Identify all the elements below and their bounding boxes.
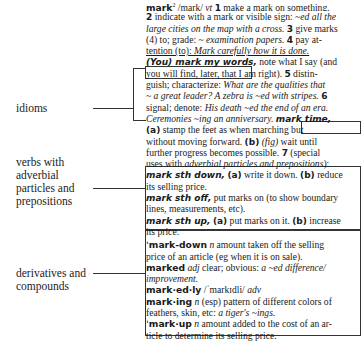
definition-text: uses with xyxy=(146,158,184,169)
definition-text: distin- xyxy=(291,68,318,79)
definition-text: make a mark on something. xyxy=(221,2,330,11)
example-text: What are the qualities that xyxy=(223,79,325,90)
entry-line: guish; characterize: What are the qualit… xyxy=(146,79,360,90)
phrasal-verb: mark sth up, xyxy=(146,216,210,226)
entry-line: mark sth off, put marks on (to show boun… xyxy=(146,192,360,203)
entry-line: mark2 /mark/ vt 1 make a mark on somethi… xyxy=(146,0,360,11)
definition-text: its price. xyxy=(146,226,179,237)
part-of-speech: adv xyxy=(247,284,261,295)
definition-text: reduce xyxy=(315,169,343,180)
example-text: examination papers. xyxy=(206,34,284,45)
subsense-label: (b) xyxy=(300,170,315,180)
example-text: improvement. xyxy=(146,273,198,284)
entry-line: its selling price. xyxy=(146,181,360,192)
definition-text: ): xyxy=(323,158,329,169)
entry-line: feathers, skin, etc: a tiger's ~ings. xyxy=(146,307,360,318)
bracket-idioms-bottom xyxy=(133,120,146,121)
entry-line: (You) mark my words, note what I say (an… xyxy=(146,56,360,67)
connector-verbs xyxy=(93,188,145,189)
idiom-phrase: (You) mark my words, xyxy=(146,57,257,67)
definition-text: wait until xyxy=(278,136,317,147)
bracket-idioms xyxy=(133,68,134,120)
label-derivatives-line: compounds xyxy=(16,280,86,293)
definition-text: lines, measurements, etc). xyxy=(146,203,245,214)
derivative-headword: ˈmark·up xyxy=(146,318,192,329)
definition-text: amount taken off the selling xyxy=(214,239,324,250)
example-text: large cities on the map with a cross. xyxy=(146,23,284,34)
entry-line: price of an article (eg when it is on sa… xyxy=(146,251,360,262)
pronunciation: /ˈmarkɪdli/ xyxy=(201,284,247,295)
definition-text: stamp the feet as when marching but xyxy=(160,124,303,135)
definition-text: signal; denote: xyxy=(146,102,205,113)
definition-text: put marks on (to show boundary xyxy=(211,192,338,203)
subsense-label: (a) xyxy=(146,125,160,135)
example-text: Mark carefully how it is done. xyxy=(194,45,309,56)
entry-line: marked adj clear; obvious: a ~ed differe… xyxy=(146,262,360,273)
label-derivatives: derivatives and compounds xyxy=(16,267,86,293)
connector-idioms xyxy=(93,108,133,109)
connector-derivatives xyxy=(93,273,145,274)
derivative-headword: ˈmark-down xyxy=(146,239,207,250)
subsense-label: (a) xyxy=(227,170,241,180)
entry-line: further progress becomes possible. 7 (sp… xyxy=(146,147,360,158)
definition-text: give marks xyxy=(293,23,338,34)
entry-line: large cities on the map with a cross. 3 … xyxy=(146,23,360,34)
entry-line: mark·ed·ly /ˈmarkɪdli/ adv xyxy=(146,284,360,295)
entry-line: without moving forward. (b) (fig) wait u… xyxy=(146,136,360,147)
phrasal-verb: mark sth down, xyxy=(146,170,225,180)
label-derivatives-line: derivatives and xyxy=(16,267,86,280)
label-idioms: idioms xyxy=(16,102,47,115)
example-text: Ceremonies ~ing an anniversary. xyxy=(146,113,273,124)
label-verbs-line: adverbial xyxy=(16,169,74,182)
entry-line: (4) to; grade: ~ examination papers. 4 p… xyxy=(146,34,360,45)
entry-line: lines, measurements, etc). xyxy=(146,203,360,214)
derivative-headword: marked xyxy=(146,262,185,273)
definition-text: price of an article (eg when it is on sa… xyxy=(146,251,303,262)
entry-line: ~ a great leader? A zebra is ~ed with st… xyxy=(146,90,360,101)
entry-line: mark sth down, (a) write it down. (b) re… xyxy=(146,169,360,180)
sense-number: 6 xyxy=(321,91,327,101)
example-text: a ~ed difference/ xyxy=(261,262,326,273)
example-text: ~ed all the xyxy=(295,11,336,22)
definition-text: tention (to): xyxy=(146,45,194,56)
definition-text: put marks on it. xyxy=(227,215,292,226)
label-verbs-line: verbs with xyxy=(16,156,74,169)
definition-text: (4) to; grade: ~ xyxy=(146,34,206,45)
entry-line: uses with adverbial particles and prepos… xyxy=(146,158,360,169)
definition-text: feathers, skin, etc: xyxy=(146,307,218,318)
definition-text: ticle to determine its selling price. xyxy=(146,330,277,341)
label-verbs: verbs with adverbial particles and prepo… xyxy=(16,156,74,208)
entry-line: Ceremonies ~ing an anniversary. mark tim… xyxy=(146,113,360,124)
homograph-number: 2 xyxy=(172,2,175,8)
label-verbs-line: particles and xyxy=(16,182,74,195)
entry-line: ˈmark-down n amount taken off the sellin… xyxy=(146,239,360,250)
usage-label: (fig) xyxy=(262,136,279,147)
entry-line: ˈmark·up n amount added to the cost of a… xyxy=(146,318,360,329)
entry-line: (a) stamp the feet as when marching but xyxy=(146,124,360,135)
entry-line: you will find, later, that I am right). … xyxy=(146,68,360,79)
entry-line: its price. xyxy=(146,226,360,237)
subsense-label: (b) xyxy=(245,137,260,147)
subsense-label: (a) xyxy=(213,216,227,226)
definition-text: amount added to the cost of an ar- xyxy=(199,318,332,329)
dictionary-entry: mark2 /mark/ vt 1 make a mark on somethi… xyxy=(146,0,360,341)
derivative-headword: mark·ing xyxy=(146,296,192,307)
entry-line: tention (to): Mark carefully how it is d… xyxy=(146,45,360,56)
part-of-speech: adj xyxy=(187,262,199,273)
example-text: ~ a great leader? A zebra is ~ed with st… xyxy=(146,90,319,101)
entry-line: improvement. xyxy=(146,273,360,284)
definition-text: increase xyxy=(307,215,341,226)
definition-text: without moving forward. xyxy=(146,136,245,147)
entry-line: signal; denote: His death ~ed the end of… xyxy=(146,102,360,113)
definition-text: indicate with a mark or visible sign: xyxy=(152,11,295,22)
definition-text: you will find, later, that I am right). xyxy=(146,68,282,79)
example-text: a tiger's ~ings. xyxy=(218,307,275,318)
label-verbs-line: prepositions xyxy=(16,195,74,208)
definition-text: guish; characterize: xyxy=(146,79,223,90)
entry-line: 2 indicate with a mark or visible sign: … xyxy=(146,11,360,22)
definition-text: (special xyxy=(288,147,320,158)
derivative-headword: mark·ed·ly xyxy=(146,284,201,295)
headword: mark xyxy=(146,2,172,11)
definition-text: pay at- xyxy=(293,34,322,45)
definition-text: note what I say (and xyxy=(257,56,337,67)
